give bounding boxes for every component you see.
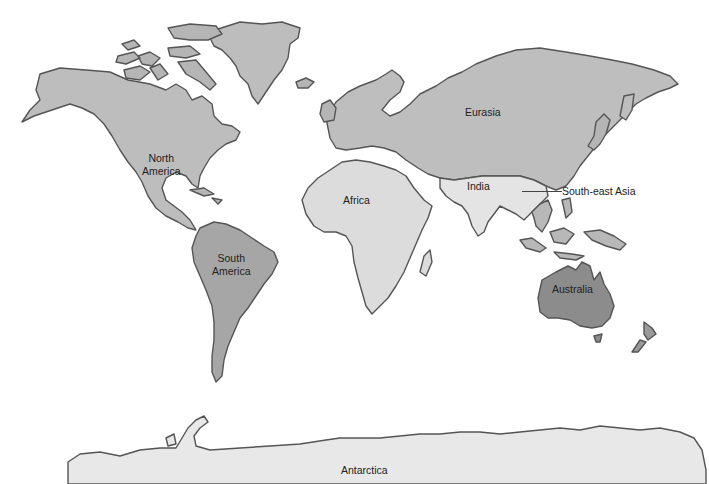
label-south-america-line1: South [212,252,251,265]
label-australia: Australia [552,283,593,296]
label-india: India [467,180,490,193]
madagascar-shape [420,250,432,276]
greenland-shape [210,22,300,104]
south-america-shape [192,222,278,382]
antarctica-small-island-shape [166,434,176,446]
south-east-asia-leader-line [522,191,562,192]
africa-shape [302,160,432,314]
label-eurasia: Eurasia [465,106,501,119]
label-north-america-line2: America [142,165,181,178]
label-north-america-line1: North [142,152,181,165]
india-shape [440,176,548,236]
tasmania-shape [594,334,602,342]
south-east-asia-shape [520,198,626,260]
label-africa: Africa [343,194,370,207]
world-map [0,0,709,484]
label-antarctica: Antarctica [341,464,388,477]
caribbean-islands-shape [190,188,222,204]
label-south-east-asia: South-east Asia [562,185,636,198]
british-isles-shape [320,100,336,122]
iceland-shape [296,78,314,88]
label-south-america-line2: America [212,265,251,278]
label-north-america: North America [142,152,181,178]
label-south-america: South America [212,252,251,278]
north-america-shape [22,68,240,230]
new-zealand-shape [632,322,656,352]
